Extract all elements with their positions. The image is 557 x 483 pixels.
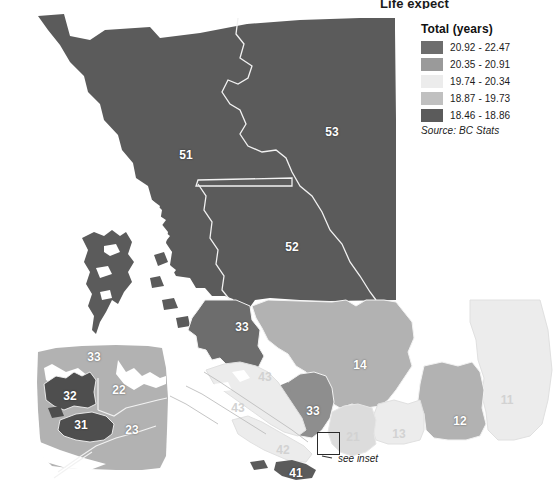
legend-swatch-0: [421, 41, 443, 54]
legend-source: Source: BC Stats: [421, 125, 553, 136]
see-inset-label: see inset: [338, 453, 378, 464]
legend-item-1[interactable]: 20.35 - 20.91: [421, 56, 553, 73]
legend-label-4: 18.46 - 18.86: [450, 110, 510, 121]
legend-label-0: 20.92 - 22.47: [450, 42, 510, 53]
legend-rows: 20.92 - 22.4720.35 - 20.9119.74 - 20.341…: [421, 39, 553, 124]
map-region-33-north[interactable]: [188, 300, 264, 370]
legend-item-0[interactable]: 20.92 - 22.47: [421, 39, 553, 56]
map-figure: Life expect: [0, 0, 557, 483]
legend-swatch-3: [421, 92, 443, 105]
legend-swatch-2: [421, 75, 443, 88]
legend-item-2[interactable]: 19.74 - 20.34: [421, 73, 553, 90]
inset-map: [30, 338, 178, 481]
inset-marker-box: [317, 432, 340, 455]
inset-leader-line: [322, 456, 332, 458]
legend-item-3[interactable]: 18.87 - 19.73: [421, 90, 553, 107]
map-region-41[interactable]: [250, 460, 316, 480]
map-region-haida-gwaii[interactable]: [82, 230, 134, 334]
legend-label-3: 18.87 - 19.73: [450, 93, 510, 104]
legend-item-4[interactable]: 18.46 - 18.86: [421, 107, 553, 124]
map-region-12[interactable]: [418, 362, 486, 440]
map-region-13[interactable]: [372, 400, 424, 444]
legend-label-2: 19.74 - 20.34: [450, 76, 510, 87]
legend-swatch-1: [421, 58, 443, 71]
legend-swatch-4: [421, 109, 443, 122]
legend: Total (years) 20.92 - 22.4720.35 - 20.91…: [421, 22, 553, 136]
legend-title: Total (years): [421, 22, 553, 36]
legend-label-1: 20.35 - 20.91: [450, 59, 510, 70]
